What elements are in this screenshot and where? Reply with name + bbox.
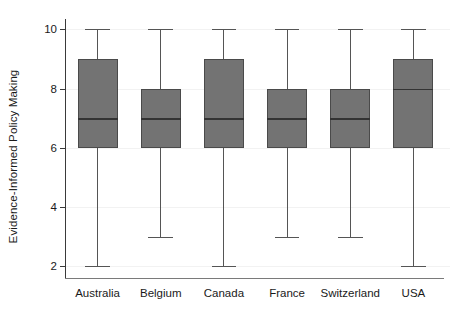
x-tick-label-france: France: [269, 287, 305, 299]
lower-whisker-cap: [148, 237, 173, 238]
lower-whisker: [350, 148, 351, 237]
y-axis-spine: [65, 19, 66, 278]
lower-whisker: [413, 148, 414, 266]
median-line: [78, 118, 118, 120]
lower-whisker-cap: [212, 266, 237, 267]
x-tick-label-usa: USA: [402, 287, 426, 299]
upper-whisker: [97, 29, 98, 59]
box-plot-canada[interactable]: [204, 19, 244, 280]
gridline-2: [66, 266, 450, 267]
y-tick-label: 6: [51, 142, 57, 154]
lower-whisker-cap: [275, 237, 300, 238]
gridline-6: [66, 148, 450, 149]
median-line: [204, 118, 244, 120]
gridline-8: [66, 89, 450, 90]
y-axis-title: Evidence-Informed Policy Making: [0, 0, 26, 313]
upper-whisker-cap: [85, 29, 110, 30]
box-plot-switzerland[interactable]: [330, 19, 370, 280]
x-tick-label-belgium: Belgium: [140, 287, 182, 299]
lower-whisker-cap: [401, 266, 426, 267]
upper-whisker: [287, 29, 288, 88]
upper-whisker-cap: [212, 29, 237, 30]
median-line: [141, 118, 181, 120]
y-tick-label: 10: [44, 23, 57, 35]
lower-whisker-cap: [338, 237, 363, 238]
box-plot-usa[interactable]: [393, 19, 433, 280]
box-iqr: [204, 59, 244, 148]
median-line: [267, 118, 307, 120]
lower-whisker-cap: [85, 266, 110, 267]
upper-whisker: [223, 29, 224, 59]
x-tick-label-canada: Canada: [204, 287, 244, 299]
y-tick-mark: [60, 266, 65, 267]
box-plot-france[interactable]: [267, 19, 307, 280]
upper-whisker: [350, 29, 351, 88]
box-iqr: [393, 59, 433, 148]
x-tick-label-switzerland: Switzerland: [321, 287, 380, 299]
box-iqr: [78, 59, 118, 148]
y-tick-mark: [60, 207, 65, 208]
lower-whisker: [97, 148, 98, 266]
lower-whisker: [223, 148, 224, 266]
gridline-10: [66, 29, 450, 30]
upper-whisker-cap: [275, 29, 300, 30]
y-tick-mark: [60, 148, 65, 149]
upper-whisker: [413, 29, 414, 59]
lower-whisker: [287, 148, 288, 237]
y-tick-label: 8: [51, 83, 57, 95]
y-tick-label: 2: [51, 260, 57, 272]
x-tick-label-australia: Australia: [75, 287, 120, 299]
upper-whisker-cap: [401, 29, 426, 30]
y-tick-mark: [60, 89, 65, 90]
plot-area: 246810 AustraliaBelgiumCanadaFranceSwitz…: [65, 19, 450, 280]
lower-whisker: [160, 148, 161, 237]
box-plot-belgium[interactable]: [141, 19, 181, 280]
boxplot-chart: Evidence-Informed Policy Making 246810 A…: [0, 0, 464, 313]
y-tick-mark: [60, 29, 65, 30]
median-line: [393, 89, 433, 91]
upper-whisker-cap: [338, 29, 363, 30]
box-plot-australia[interactable]: [78, 19, 118, 280]
median-line: [330, 118, 370, 120]
x-axis-spine: [65, 278, 444, 279]
gridline-4: [66, 207, 450, 208]
upper-whisker: [160, 29, 161, 88]
upper-whisker-cap: [148, 29, 173, 30]
y-tick-label: 4: [51, 201, 57, 213]
